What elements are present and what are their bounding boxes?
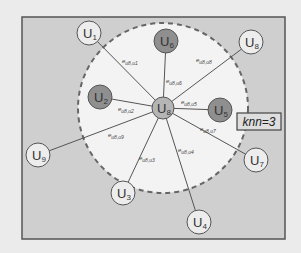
- knn-label: knn=3: [242, 115, 275, 129]
- edge-label-u2: eu8,u2: [118, 106, 134, 114]
- edge-label-u7: eu8,u7: [200, 126, 216, 134]
- node-u9: U9: [26, 143, 50, 167]
- node-u8b: U8: [239, 30, 263, 54]
- knn-graph-diagram: eu8,u1eu8,u6eu8,u8eu8,u2eu8,u5eu8,u9eu8,…: [0, 0, 301, 253]
- node-u2: U2: [88, 85, 112, 109]
- node-u3: U3: [111, 181, 135, 205]
- node-u6: U6: [154, 29, 178, 53]
- edge-label-u4: eu8,u4: [178, 147, 194, 155]
- edge-label-u6: eu8,u6: [166, 78, 182, 86]
- edge-label-u8b: eu8,u8: [196, 57, 212, 65]
- edge-label-u3: eu8,u3: [139, 155, 155, 163]
- knn-annotation: knn=3: [237, 113, 281, 130]
- node-u4: U4: [187, 210, 211, 234]
- node-u1: U1: [77, 21, 101, 45]
- node-u7: U7: [244, 148, 268, 172]
- edge-label-u1: eu8,u1: [122, 58, 138, 66]
- node-u5: U5: [208, 98, 232, 122]
- edge-label-u5: eu8,u5: [181, 99, 197, 107]
- node-u8: U8: [152, 97, 174, 119]
- edge-label-u9: eu8,u9: [108, 132, 124, 140]
